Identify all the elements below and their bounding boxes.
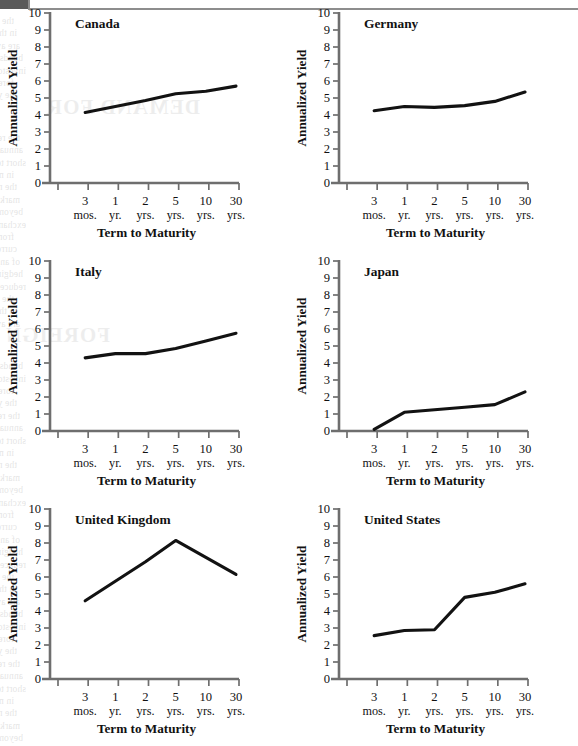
x-tick-unit: yrs. [516, 208, 534, 222]
x-tick-number: 10 [200, 690, 213, 704]
x-tick-number: 30 [230, 194, 243, 208]
x-tick-unit: yrs. [426, 456, 444, 470]
x-tick-number: 30 [519, 690, 532, 704]
y-axis-title: Annualized Yield [5, 49, 20, 147]
x-tick-number: 1 [112, 194, 118, 208]
y-tick-label: 3 [324, 125, 330, 139]
x-tick-unit: yr. [398, 208, 411, 222]
y-tick-label: 2 [35, 142, 41, 156]
x-tick-number: 5 [462, 194, 468, 208]
y-tick-label: 10 [317, 254, 330, 268]
x-tick-number: 2 [142, 442, 148, 456]
x-tick-number: 2 [142, 690, 148, 704]
chart-title: Japan [364, 264, 400, 279]
x-tick-unit: yrs. [486, 208, 504, 222]
x-tick-number: 3 [371, 194, 377, 208]
y-tick-label: 9 [35, 23, 41, 37]
y-tick-label: 10 [317, 6, 330, 20]
x-tick-unit: yr. [109, 704, 122, 718]
x-tick-unit: mos. [73, 704, 96, 718]
y-tick-label: 5 [35, 91, 41, 105]
x-tick-unit: yrs. [426, 704, 444, 718]
y-tick-label: 4 [324, 604, 331, 618]
x-tick-number: 1 [401, 690, 407, 704]
y-tick-label: 1 [324, 159, 330, 173]
x-tick-unit: mos. [362, 208, 385, 222]
x-axis-title: Term to Maturity [386, 721, 486, 736]
y-tick-label: 2 [324, 142, 330, 156]
x-tick-number: 5 [462, 690, 468, 704]
yield-curve-chart-grid: 0123456789103mos.1yr.2yrs.5yrs.10yrs.30y… [0, 0, 578, 746]
y-tick-label: 8 [35, 288, 41, 302]
x-tick-unit: yrs. [456, 704, 474, 718]
y-tick-label: 4 [324, 108, 331, 122]
y-tick-label: 1 [35, 655, 41, 669]
x-tick-unit: yrs. [227, 208, 245, 222]
x-tick-unit: yrs. [227, 456, 245, 470]
x-axis-title: Term to Maturity [97, 721, 197, 736]
x-tick-number: 3 [82, 194, 88, 208]
yield-curve-line [374, 392, 525, 429]
y-tick-label: 4 [35, 604, 42, 618]
x-tick-unit: yr. [109, 456, 122, 470]
y-tick-label: 1 [35, 407, 41, 421]
x-tick-number: 1 [112, 690, 118, 704]
x-tick-number: 1 [112, 442, 118, 456]
y-tick-label: 7 [35, 57, 41, 71]
x-tick-unit: yrs. [137, 704, 155, 718]
x-tick-number: 30 [230, 442, 243, 456]
y-tick-label: 5 [35, 339, 41, 353]
x-tick-unit: yrs. [456, 456, 474, 470]
x-tick-number: 30 [519, 194, 532, 208]
chart-title: Germany [364, 16, 419, 31]
x-tick-number: 30 [230, 690, 243, 704]
y-tick-label: 2 [324, 638, 330, 652]
x-tick-number: 3 [371, 690, 377, 704]
x-tick-number: 3 [82, 442, 88, 456]
y-tick-label: 3 [35, 373, 41, 387]
yield-curve-line [85, 86, 236, 112]
x-tick-number: 10 [489, 690, 502, 704]
yield-curve-line [85, 540, 236, 600]
y-tick-label: 3 [324, 621, 330, 635]
x-tick-number: 2 [431, 194, 437, 208]
y-tick-label: 0 [35, 672, 41, 686]
x-tick-number: 1 [401, 442, 407, 456]
x-tick-unit: yrs. [137, 456, 155, 470]
y-tick-label: 2 [35, 390, 41, 404]
yield-curve-line [374, 92, 525, 111]
x-tick-number: 2 [142, 194, 148, 208]
y-tick-label: 8 [35, 40, 41, 54]
y-tick-label: 7 [324, 305, 330, 319]
y-tick-label: 7 [35, 305, 41, 319]
x-tick-unit: yrs. [486, 704, 504, 718]
chart-title: Italy [75, 264, 102, 279]
y-tick-label: 0 [35, 424, 41, 438]
y-tick-label: 9 [324, 23, 330, 37]
y-tick-label: 5 [324, 91, 330, 105]
x-tick-number: 5 [173, 690, 179, 704]
yield-curve-line [85, 333, 236, 358]
y-tick-label: 6 [35, 322, 41, 336]
x-tick-number: 2 [431, 690, 437, 704]
x-tick-unit: yrs. [137, 208, 155, 222]
y-tick-label: 5 [324, 587, 330, 601]
x-tick-unit: mos. [73, 208, 96, 222]
x-axis-title: Term to Maturity [386, 473, 486, 488]
x-tick-number: 10 [489, 442, 502, 456]
y-axis-title: Annualized Yield [294, 297, 309, 395]
x-tick-unit: yr. [398, 456, 411, 470]
y-tick-label: 10 [28, 502, 41, 516]
y-tick-label: 7 [35, 553, 41, 567]
y-tick-label: 5 [35, 587, 41, 601]
y-tick-label: 6 [324, 74, 330, 88]
x-tick-unit: yrs. [426, 208, 444, 222]
y-axis-title: Annualized Yield [294, 49, 309, 147]
x-tick-unit: yrs. [167, 456, 185, 470]
chart-panel-germany: 0123456789103mos.1yr.2yrs.5yrs.10yrs.30y… [289, 0, 578, 248]
x-tick-number: 3 [82, 690, 88, 704]
y-tick-label: 3 [35, 621, 41, 635]
x-tick-number: 5 [173, 442, 179, 456]
x-tick-number: 3 [371, 442, 377, 456]
y-tick-label: 6 [324, 570, 330, 584]
